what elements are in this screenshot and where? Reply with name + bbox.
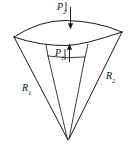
front-inner-bottom-edge bbox=[48, 56, 85, 58]
label-p1: P1 bbox=[55, 48, 64, 61]
label-r1: R1 bbox=[22, 83, 31, 96]
inner-right-radial-edge bbox=[69, 57, 85, 139]
front-right-vertical-edge bbox=[85, 44, 88, 57]
p2-arrow-head bbox=[68, 23, 73, 29]
label-r2: R2 bbox=[106, 71, 115, 84]
label-p2: P2 bbox=[57, 2, 66, 15]
inner-left-radial-edge bbox=[48, 56, 68, 140]
label-r2-subscript: 2 bbox=[112, 77, 115, 84]
geometric-figure: P2 P1 R1 R2 bbox=[0, 0, 134, 152]
top-back-curved-edge bbox=[14, 20, 122, 37]
right-radial-edge-r2 bbox=[69, 32, 122, 139]
label-r1-subscript: 1 bbox=[28, 89, 31, 96]
top-front-curved-edge bbox=[14, 32, 122, 46]
label-p1-subscript: 1 bbox=[61, 54, 64, 61]
p1-arrow-head bbox=[67, 44, 72, 50]
front-left-vertical-edge bbox=[46, 45, 48, 56]
label-p2-subscript: 2 bbox=[63, 8, 66, 15]
